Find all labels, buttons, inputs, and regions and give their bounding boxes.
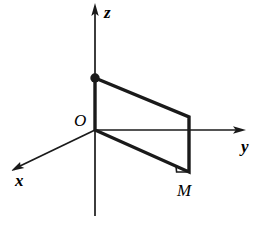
x-axis-line — [20, 130, 95, 166]
x-axis-label: x — [15, 172, 24, 189]
point-m-label: M — [177, 182, 191, 199]
x-axis — [11, 130, 95, 171]
projection-rectangle — [95, 78, 189, 172]
origin-label: O — [74, 112, 86, 129]
projection-rectangle-outline — [95, 78, 189, 172]
y-axis-label: y — [241, 138, 249, 155]
point-dot-icon — [90, 73, 99, 82]
geometry-figure: z y x O M — [0, 0, 261, 234]
x-axis-arrowhead — [11, 162, 24, 171]
z-axis-point — [90, 73, 99, 82]
z-axis-label: z — [104, 4, 111, 21]
figure-canvas — [0, 0, 261, 234]
y-axis — [95, 126, 246, 133]
